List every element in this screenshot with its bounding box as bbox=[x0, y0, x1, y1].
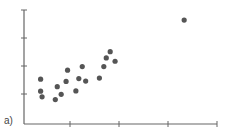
data-point bbox=[53, 97, 58, 102]
data-point bbox=[76, 76, 81, 81]
data-point bbox=[59, 92, 64, 97]
data-point bbox=[104, 55, 109, 60]
data-point bbox=[38, 77, 43, 82]
data-point bbox=[83, 79, 88, 84]
panel-label: a) bbox=[4, 115, 13, 126]
axes bbox=[21, 10, 217, 127]
data-point bbox=[55, 84, 60, 89]
data-point bbox=[38, 89, 43, 94]
data-point bbox=[182, 17, 187, 22]
data-point bbox=[39, 94, 44, 99]
data-point bbox=[101, 64, 106, 69]
data-point bbox=[80, 64, 85, 69]
data-point bbox=[112, 59, 117, 64]
data-point bbox=[97, 75, 102, 80]
data-point bbox=[63, 79, 68, 84]
data-point bbox=[73, 88, 78, 93]
data-point bbox=[65, 68, 70, 73]
data-points bbox=[38, 17, 187, 102]
scatter-plot bbox=[0, 0, 231, 137]
data-point bbox=[108, 49, 113, 54]
